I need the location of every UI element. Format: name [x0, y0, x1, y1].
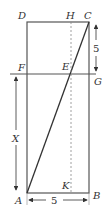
label-e: E	[61, 61, 70, 72]
label-f: F	[17, 62, 26, 73]
bottom-dimension-label: 5	[51, 195, 57, 206]
label-b: B	[92, 190, 100, 201]
label-a: A	[14, 195, 22, 206]
label-g: G	[94, 76, 102, 87]
diagonal-ac	[27, 22, 89, 193]
diagram-canvas: 5 X 5 D H C F E G K A B	[0, 0, 111, 218]
right-dimension-label: 5	[93, 43, 99, 54]
label-h: H	[65, 10, 75, 21]
geometry-diagram: 5 X 5 D H C F E G K A B	[0, 0, 111, 218]
left-dimension-label: X	[11, 133, 20, 144]
label-c: C	[84, 10, 92, 21]
label-k: K	[61, 180, 70, 191]
label-d: D	[17, 10, 26, 21]
